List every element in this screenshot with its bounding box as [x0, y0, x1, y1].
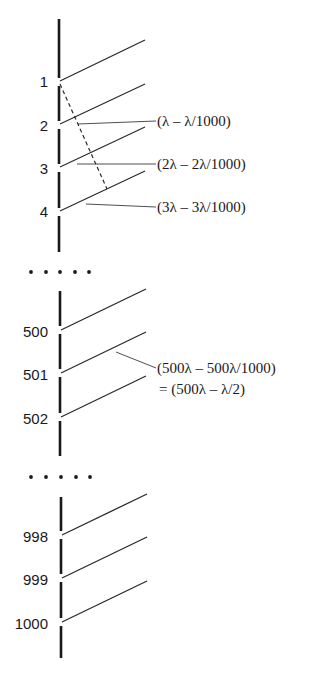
path-diff-1-2: (λ – λ/1000): [157, 113, 231, 130]
ray-999: [62, 537, 147, 578]
grating-diagram: 1 2 3 4 500 501 502 998 999 1000 (λ – λ/…: [0, 0, 316, 674]
slit-label: 2: [40, 117, 48, 134]
ray-1000: [62, 581, 147, 622]
slit-label: 1: [40, 73, 48, 90]
path-diff-1-4: (3λ – 3λ/1000): [157, 199, 246, 216]
path-diff-1-3: (2λ – 2λ/1000): [157, 156, 246, 173]
ray-500: [61, 289, 146, 330]
slit-label: 3: [40, 160, 48, 177]
grating-barrier: [59, 19, 61, 658]
annotation-leaders: [77, 121, 156, 368]
ray-2: [60, 84, 145, 124]
path-difference-annotations: (λ – λ/1000) (2λ – 2λ/1000) (3λ – 3λ/100…: [157, 113, 276, 398]
slit-label: 999: [23, 571, 48, 588]
ray-1: [60, 40, 145, 81]
slit-label: 998: [23, 528, 48, 545]
slit-label: 1000: [15, 615, 48, 632]
path-diff-1-501: (500λ – 500λ/1000): [157, 360, 276, 377]
slit-label: 502: [23, 410, 48, 427]
slit-label: 4: [40, 203, 48, 220]
slit-label: 500: [23, 323, 48, 340]
diffracted-rays: [60, 40, 147, 622]
ray-3: [60, 127, 145, 167]
slit-labels: 1 2 3 4 500 501 502 998 999 1000: [15, 73, 48, 632]
path-diff-simplified: = (500λ – λ/2): [159, 381, 245, 398]
ray-998: [62, 494, 147, 535]
wavefront-dashed-line: [60, 84, 107, 189]
ray-501: [61, 332, 146, 373]
ray-502: [61, 376, 146, 417]
slit-label: 501: [23, 366, 48, 383]
